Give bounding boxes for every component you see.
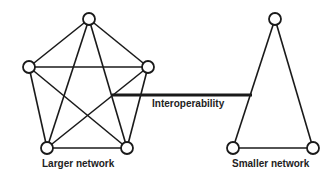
node-circle (307, 142, 319, 154)
node-circle (142, 61, 154, 73)
network-diagram (0, 0, 336, 184)
larger-network-edges (29, 19, 148, 148)
node-circle (23, 61, 35, 73)
node-circle (227, 142, 239, 154)
smaller-network-label: Smaller network (232, 158, 309, 169)
node-circle (41, 142, 53, 154)
node-circle (83, 13, 95, 25)
node-circle (121, 142, 133, 154)
node-circle (269, 13, 281, 25)
larger-network-label: Larger network (42, 158, 114, 169)
interoperability-label: Interoperability (152, 98, 224, 109)
smaller-network-edges (233, 19, 313, 148)
